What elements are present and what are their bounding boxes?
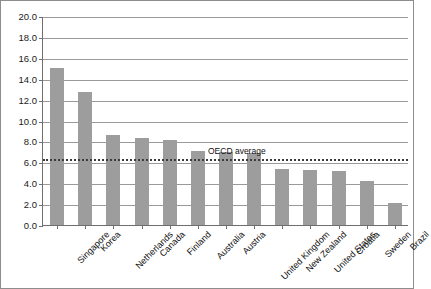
bar: [50, 68, 64, 225]
y-axis-tick-label: 14.0: [0, 75, 37, 85]
bar-slot: [240, 17, 268, 225]
x-axis-category-label: Finland: [185, 230, 212, 257]
bar: [303, 170, 317, 225]
bar-slot: [99, 17, 127, 225]
x-axis-tick: [226, 225, 227, 229]
x-axis-category-label: Australia: [215, 230, 246, 261]
x-axis-tick: [85, 225, 86, 229]
y-axis-tick-label: 12.0: [0, 96, 37, 106]
oecd-average-line: [43, 159, 408, 161]
x-axis-tick: [282, 225, 283, 229]
x-axis-tick: [254, 225, 255, 229]
y-axis-tick-label: 20.0: [0, 12, 37, 22]
x-axis-tick: [367, 225, 368, 229]
y-axis-tick-label: 0.0: [0, 221, 37, 231]
y-axis-tick-label: 6.0: [0, 159, 37, 169]
y-axis-tick-label: 10.0: [0, 117, 37, 127]
bar-slot: [353, 17, 381, 225]
oecd-average-label: OECD average: [208, 147, 266, 156]
x-axis-tick: [310, 225, 311, 229]
bar: [219, 152, 233, 225]
x-axis-tick: [142, 225, 143, 229]
bar-slot: [127, 17, 155, 225]
x-axis-labels: SingaporeKoreaNetherlandsCanadaFinlandAu…: [42, 230, 408, 289]
x-axis-category-label: Brazil: [409, 230, 431, 252]
bar: [163, 140, 177, 225]
bar-slot: [296, 17, 324, 225]
bar: [360, 181, 374, 225]
x-axis-tick: [395, 225, 396, 229]
y-axis-tick-label: 4.0: [0, 179, 37, 189]
bar-slot: [325, 17, 353, 225]
y-axis-tick: [39, 226, 43, 227]
bar-slot: [71, 17, 99, 225]
plot-area: [42, 17, 408, 226]
x-axis-tick: [113, 225, 114, 229]
x-axis-tick: [339, 225, 340, 229]
bar: [275, 169, 289, 225]
y-axis-tick-label: 2.0: [0, 200, 37, 210]
bar: [191, 151, 205, 225]
bar-slot: [43, 17, 71, 225]
x-axis-tick: [198, 225, 199, 229]
bar: [388, 203, 402, 225]
bar-slot: [268, 17, 296, 225]
bar: [135, 138, 149, 225]
bar-slot: [156, 17, 184, 225]
bar: [332, 171, 346, 225]
y-axis-tick-label: 8.0: [0, 138, 37, 148]
x-axis-category-label: Austria: [241, 230, 267, 256]
x-axis-tick: [57, 225, 58, 229]
bar: [106, 135, 120, 225]
bar-slot: [184, 17, 212, 225]
bar-series: [43, 17, 408, 225]
y-axis-tick-label: 18.0: [0, 33, 37, 43]
bar-slot: [212, 17, 240, 225]
bar: [247, 153, 261, 225]
y-axis-tick-label: 16.0: [0, 54, 37, 64]
bar-slot: [381, 17, 409, 225]
x-axis-tick: [170, 225, 171, 229]
